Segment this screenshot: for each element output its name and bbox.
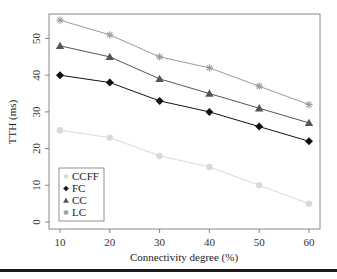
y-tick-label: 30 <box>30 106 42 118</box>
x-tick-label: 50 <box>254 236 266 248</box>
diamond-marker <box>106 79 114 87</box>
legend-label-cc: CC <box>72 194 87 206</box>
diamond-marker <box>255 123 263 131</box>
y-tick-label: 50 <box>30 33 42 45</box>
y-tick-label: 20 <box>30 143 42 155</box>
star-marker <box>305 101 312 108</box>
bottom-rule <box>0 269 337 272</box>
star-marker <box>63 210 68 215</box>
diamond-marker <box>156 97 164 105</box>
series-lc <box>56 17 312 109</box>
x-axis-title: Connectivity degree (%) <box>130 251 238 264</box>
x-tick-label: 30 <box>154 236 166 248</box>
line-chart: 01020304050 102030405060 TTH (ms) Connec… <box>0 0 337 279</box>
x-tick-label: 10 <box>55 236 67 248</box>
y-tick-label: 0 <box>30 219 42 225</box>
x-axis: 102030405060 <box>55 229 316 248</box>
circle-marker <box>107 134 113 140</box>
diamond-marker <box>305 137 313 145</box>
series-line <box>60 20 309 104</box>
legend-label-ccff: CCFF <box>72 170 99 182</box>
y-axis-title: TTH (ms) <box>6 100 19 145</box>
triangle-marker <box>155 75 163 82</box>
series-line <box>60 75 309 141</box>
legend: CCFFFCCCLC <box>59 168 104 221</box>
y-axis: 01020304050 <box>30 33 49 225</box>
series-cc <box>56 42 313 126</box>
circle-marker <box>57 127 63 133</box>
star-marker <box>156 53 163 60</box>
legend-label-lc: LC <box>72 206 86 218</box>
circle-marker <box>156 153 162 159</box>
x-tick-label: 60 <box>304 236 316 248</box>
series-fc <box>56 71 313 145</box>
diamond-marker <box>205 108 213 116</box>
series-line <box>60 46 309 123</box>
circle-marker <box>64 174 68 178</box>
y-tick-label: 40 <box>30 69 42 81</box>
circle-marker <box>206 164 212 170</box>
legend-label-fc: FC <box>72 182 85 194</box>
circle-marker <box>306 200 312 206</box>
x-tick-label: 40 <box>204 236 216 248</box>
y-tick-label: 10 <box>30 179 42 191</box>
star-marker <box>56 17 63 24</box>
star-marker <box>206 64 213 71</box>
circle-marker <box>256 182 262 188</box>
x-tick-label: 20 <box>104 236 116 248</box>
star-marker <box>106 31 113 38</box>
triangle-marker <box>56 42 64 49</box>
diamond-marker <box>56 71 64 79</box>
star-marker <box>256 83 263 90</box>
